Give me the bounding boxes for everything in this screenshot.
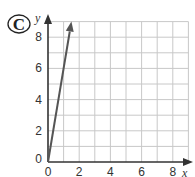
option-label: C bbox=[13, 15, 25, 34]
chart: C 02468 02468 y x bbox=[0, 0, 195, 177]
x-tick-label: 4 bbox=[107, 165, 114, 177]
y-tick-label: 0 bbox=[35, 152, 42, 166]
data-series bbox=[48, 22, 74, 162]
x-tick-label: 0 bbox=[45, 165, 52, 177]
x-tick-label: 2 bbox=[76, 165, 83, 177]
y-tick-label: 4 bbox=[35, 93, 42, 107]
y-axis-arrow-icon bbox=[44, 14, 52, 24]
x-tick-labels: 02468 bbox=[45, 165, 177, 177]
x-tick-label: 8 bbox=[169, 165, 176, 177]
y-tick-label: 8 bbox=[35, 30, 42, 44]
y-tick-labels: 02468 bbox=[35, 30, 42, 166]
y-axis-label: y bbox=[34, 11, 41, 25]
y-tick-label: 2 bbox=[35, 124, 42, 138]
line-arrow-icon bbox=[66, 22, 74, 33]
grid bbox=[48, 22, 188, 162]
option-badge: C bbox=[8, 15, 30, 34]
x-axis-label: x bbox=[181, 166, 188, 177]
data-line bbox=[48, 31, 70, 162]
x-tick-label: 6 bbox=[138, 165, 145, 177]
y-tick-label: 6 bbox=[35, 61, 42, 75]
